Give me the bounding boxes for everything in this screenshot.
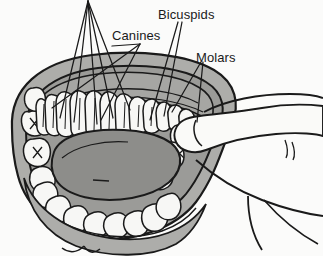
tongue-crease-mid xyxy=(93,180,109,181)
label-canines: Canines xyxy=(112,28,160,43)
label-bicuspids: Bicuspids xyxy=(158,7,215,22)
label-molars: Molars xyxy=(196,50,236,65)
figure-canvas: Canines Bicuspids Molars xyxy=(0,0,323,256)
mouth-anatomy-illustration xyxy=(0,0,323,256)
tooth-lower-R3 xyxy=(156,193,181,220)
